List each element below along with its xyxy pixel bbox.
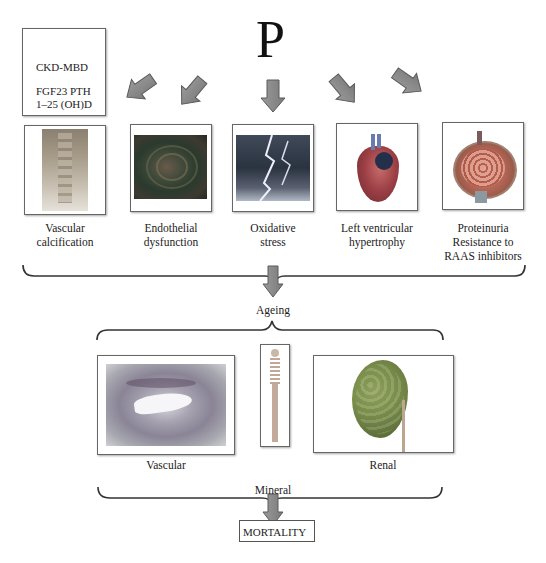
arrow-to-ageing-icon [263,266,283,297]
endothelium-image [134,135,207,199]
vascular-calcification-label: Vascular calcification [24,221,106,249]
proteinuria-frame [442,122,524,210]
mineral-frame [260,344,290,447]
vascular-label: Vascular [126,458,206,472]
ageing-brace [97,321,443,340]
endothelial-dysfunction-label: Endothelial dysfunction [124,221,218,249]
arrow-to-ckd-icon [120,69,160,107]
left-ventricular-hypertrophy-label: Left ventricular hypertrophy [330,221,424,249]
vascular-frame [97,355,235,455]
mineral-label: Mineral [233,483,313,497]
kidney-image [352,360,416,452]
oxidative-stress-frame [232,124,314,212]
lightning-image [236,135,310,201]
renal-frame [313,355,454,453]
oxidative-stress-label: Oxidative stress [228,221,318,249]
heart-image [357,134,399,204]
ckd-mbd-title: CKD-MBD [36,60,88,74]
proteinuria-label: Proteinuria Resistance to RAAS inhibitor… [436,221,530,263]
glomerulus-image [449,131,517,203]
endothelial-dysfunction-frame [130,124,212,212]
artery-histology-image [106,364,226,446]
vascular-calcification-frame [24,125,106,215]
ckd-mbd-markers-line2: 1–25 (OH)D [36,97,92,111]
mortality-box: MORTALITY [239,520,315,542]
ckd-mbd-markers-line1: FGF23 PTH [36,84,91,98]
left-ventricular-hypertrophy-frame [336,123,418,211]
skeleton-image [269,349,281,443]
ckd-mbd-box: CKD-MBD FGF23 PTH 1–25 (OH)D [22,28,106,116]
arrow-to-proteinuria-icon [388,63,428,101]
arrow-to-oxidative-icon [261,80,285,112]
renal-label: Renal [343,458,423,472]
arrow-to-endothelial-icon [173,72,212,112]
spine-xray-image [42,129,88,211]
phosphate-symbol: P [256,10,285,70]
arrow-to-lvh-icon [325,70,364,110]
ageing-label: Ageing [233,303,313,317]
